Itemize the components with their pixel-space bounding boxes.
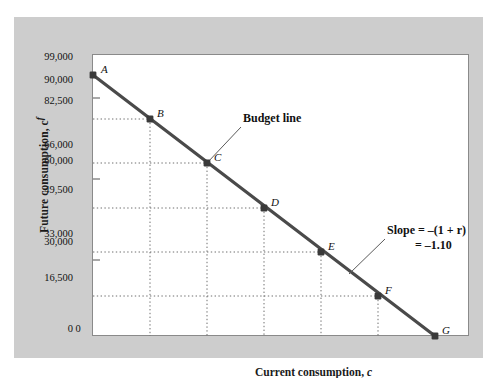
- marker-e[interactable]: [318, 249, 325, 256]
- x-axis-title-variable: c: [367, 366, 372, 378]
- point-label-g: G: [442, 324, 450, 336]
- axis-tick-marks: [93, 98, 100, 260]
- marker-b[interactable]: [147, 116, 154, 123]
- budget-line-label: Budget line: [243, 111, 301, 126]
- y-axis-title-superscript: f: [34, 117, 45, 120]
- point-label-b: B: [157, 107, 164, 119]
- marker-c[interactable]: [204, 160, 211, 167]
- chart-panel: Future consumption, cf Current consumpti…: [14, 17, 483, 358]
- horizontal-guides: [93, 119, 378, 296]
- y-tick-label-82500: 82,500: [44, 95, 73, 106]
- point-label-e: E: [328, 240, 335, 252]
- point-label-c: C: [214, 151, 221, 163]
- marker-f[interactable]: [375, 293, 382, 300]
- slope-annotation-line2: = –1.10: [387, 238, 466, 253]
- vertical-guides: [150, 119, 378, 336]
- slope-leader: [349, 239, 385, 274]
- y-tick-label-49500: 49,500: [44, 184, 73, 195]
- marker-g[interactable]: [432, 333, 439, 340]
- marker-a[interactable]: [90, 72, 97, 79]
- y-tick-label-90000: 90,000: [44, 74, 73, 85]
- marker-d[interactable]: [261, 205, 268, 212]
- slope-annotation-line1: Slope = –(1 + r): [387, 223, 466, 237]
- slope-annotation: Slope = –(1 + r) = –1.10: [387, 223, 466, 253]
- x-axis-title-text: Current consumption,: [255, 366, 367, 378]
- y-tick-label-60000: 60,000: [44, 155, 73, 166]
- y-tick-label-99000: 99,000: [44, 51, 73, 62]
- budget-line-leader: [207, 127, 241, 163]
- point-label-d: D: [271, 196, 279, 208]
- y-tick-label-16500: 16,500: [44, 272, 73, 283]
- point-label-a: A: [101, 63, 108, 75]
- point-label-f: F: [385, 284, 392, 296]
- plot-svg: [93, 55, 470, 337]
- plot-area: A B C D E F G Budget line Slope = –(1 + …: [92, 54, 469, 336]
- y-tick-label-30000: 30,000: [44, 236, 73, 247]
- x-axis-title: Current consumption, c: [14, 366, 483, 378]
- y-axis-title-text: Future consumption, c: [38, 120, 50, 233]
- y-tick-label-66000: 66,000: [44, 139, 73, 150]
